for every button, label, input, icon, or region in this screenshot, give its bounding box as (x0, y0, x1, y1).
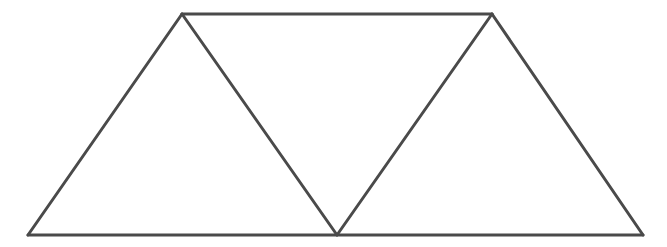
triangles-group (28, 14, 643, 235)
trapezoid-triangles-diagram (0, 0, 667, 247)
diagram-canvas (0, 0, 667, 247)
